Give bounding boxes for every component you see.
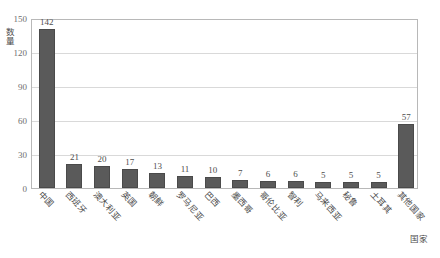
bar-value-label: 5 <box>365 171 393 180</box>
y-axis-tick-label: 30 <box>18 151 27 160</box>
x-axis-tick-label: 智利 <box>285 190 304 209</box>
x-axis-tick-label: 朝鲜 <box>147 190 166 209</box>
bar-slot: 5 <box>343 18 359 188</box>
bar-slot: 5 <box>315 18 331 188</box>
bar-slot: 10 <box>205 18 221 188</box>
bar[interactable] <box>149 173 165 188</box>
bar-value-label: 11 <box>171 165 199 174</box>
bar[interactable] <box>315 182 331 188</box>
bar-slot: 6 <box>260 18 276 188</box>
bar[interactable] <box>260 181 276 188</box>
x-axis-tick-label: 秘鲁 <box>340 190 359 209</box>
x-axis-tick-label: 澳大利亚 <box>92 190 123 222</box>
bar-value-label: 142 <box>33 18 61 27</box>
bar-value-label: 5 <box>337 171 365 180</box>
bar[interactable] <box>398 124 414 188</box>
bar-slot: 5 <box>371 18 387 188</box>
x-axis-tick-label: 其他国家 <box>396 190 427 222</box>
bar-value-label: 21 <box>60 153 88 162</box>
y-axis-tick-labels: 0306090120150 <box>0 0 30 258</box>
bar[interactable] <box>288 181 304 188</box>
bar[interactable] <box>66 164 82 188</box>
bar[interactable] <box>122 169 138 188</box>
bar-slot: 20 <box>94 18 110 188</box>
y-axis-tick-label: 120 <box>14 49 28 58</box>
bar-slot: 21 <box>66 18 82 188</box>
x-axis-tick-label: 英国 <box>119 190 138 209</box>
bar-value-label: 57 <box>392 113 420 122</box>
bar-value-label: 6 <box>254 170 282 179</box>
x-axis-tick-label: 马来西亚 <box>313 190 344 222</box>
bar-slot: 6 <box>288 18 304 188</box>
bar-value-label: 5 <box>309 171 337 180</box>
bar-slot: 17 <box>122 18 138 188</box>
x-axis-tick-label: 墨西哥 <box>230 190 255 216</box>
bar[interactable] <box>371 182 387 188</box>
x-axis-tick-label: 中国 <box>36 190 55 209</box>
bar-slot: 142 <box>39 18 55 188</box>
bar-value-label: 20 <box>88 155 116 164</box>
x-axis-tick-labels: 中国西班牙澳大利亚英国朝鲜罗马尼亚巴西墨西哥哥伦比亚智利马来西亚秘鲁土耳其其他国… <box>31 190 418 250</box>
bar[interactable] <box>205 177 221 188</box>
bar-slot: 11 <box>177 18 193 188</box>
bar-value-label: 13 <box>143 162 171 171</box>
x-axis-tick-label: 哥伦比亚 <box>257 190 288 222</box>
bar[interactable] <box>232 180 248 188</box>
bar-value-label: 17 <box>116 158 144 167</box>
bar-value-label: 7 <box>226 169 254 178</box>
bar-slot: 7 <box>232 18 248 188</box>
bar[interactable] <box>94 166 110 188</box>
bar-value-label: 10 <box>199 166 227 175</box>
x-axis-tick-label: 土耳其 <box>368 190 393 216</box>
bar[interactable] <box>343 182 359 188</box>
bar[interactable] <box>177 176 193 188</box>
clipped-top-text <box>0 0 440 9</box>
y-axis-tick-label: 60 <box>18 117 27 126</box>
bar-chart: 数量 0306090120150 14221201713111076655557… <box>0 0 440 258</box>
x-axis-title: 国家 <box>410 235 428 244</box>
y-axis-tick-label: 90 <box>18 83 27 92</box>
plot-area: 14221201713111076655557 <box>31 19 418 189</box>
bar-series: 14221201713111076655557 <box>32 20 417 188</box>
y-axis-tick-label: 0 <box>23 185 28 194</box>
bar-slot: 57 <box>398 18 414 188</box>
y-axis-tick-label: 150 <box>14 15 28 24</box>
bar-slot: 13 <box>149 18 165 188</box>
x-axis-tick-label: 罗马尼亚 <box>174 190 205 222</box>
bar[interactable] <box>39 29 55 188</box>
x-axis-tick-label: 西班牙 <box>64 190 89 216</box>
x-axis-tick-label: 巴西 <box>202 190 221 209</box>
bar-value-label: 6 <box>282 170 310 179</box>
